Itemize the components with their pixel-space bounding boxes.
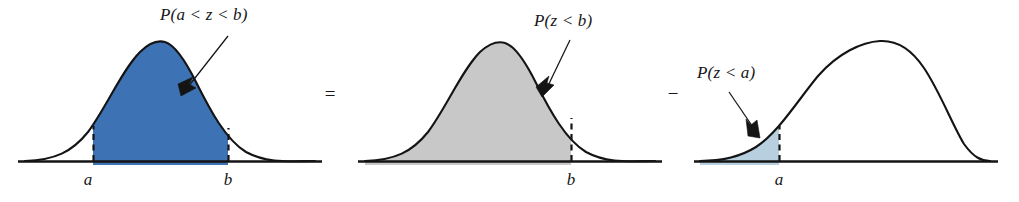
panel-3-callout-label: P(z < a)	[696, 63, 756, 82]
panel-2-callout-label: P(z < b)	[533, 11, 593, 30]
panel-3-bell-curve	[700, 41, 990, 161]
equals-operator: =	[325, 83, 336, 104]
panel-3-callout-arrow	[729, 92, 760, 138]
normal-distribution-identity-figure: P(a < z < b) a b = P(z < b) b −	[0, 0, 1019, 202]
panel-3-group: P(z < a) a	[694, 20, 998, 189]
panel-3-shaded-area	[696, 20, 779, 165]
panel-1-axis-label-a: a	[84, 170, 93, 189]
panel-1-axis-label-b: b	[224, 170, 233, 189]
panel-2-group: P(z < b) b	[358, 11, 662, 189]
panel-1-callout-label: P(a < z < b)	[159, 5, 248, 24]
panel-2-callout-arrow	[536, 40, 570, 97]
panel-2-axis-label-b: b	[567, 170, 576, 189]
minus-operator: −	[668, 83, 679, 104]
panel-1-group: P(a < z < b) a b	[18, 5, 322, 189]
panel-3-axis-label-a: a	[775, 170, 784, 189]
